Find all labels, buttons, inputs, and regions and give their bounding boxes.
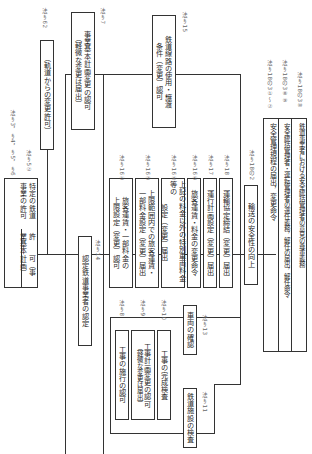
construction-ref-2: 法§10 — [160, 300, 168, 320]
construction-label: 工事の完成検査 — [160, 350, 169, 400]
construction-box-2: 工事の完成検査 — [157, 330, 171, 420]
fare-spine — [240, 74, 241, 384]
vehicle-check-label: 車両の確認 — [186, 312, 195, 348]
safety-ref-2: 法§18の3⑩ — [296, 72, 304, 109]
fare-box-3: 旅客運賃・料金の変更命令 — [187, 178, 201, 288]
fare-ref-3: 法§16⑤ — [191, 155, 199, 182]
construction-left — [110, 317, 111, 433]
plan-change-ref: 法§7 — [99, 8, 107, 24]
fare-ref-1: 法§16③ — [144, 155, 152, 182]
safety-ref-1: 法§18の3⑧⑨ — [281, 60, 289, 103]
fare-label: 旅客運賃・一部料金の — [121, 197, 130, 269]
plan-change-label: 事業基本計画変更の認可 — [83, 31, 92, 110]
vehicle-check-box: 車両の確認 — [183, 305, 197, 355]
root-permit-subtitle: 特定の鉄道事業の許可 — [21, 179, 37, 229]
fare-box-4: 運行計画設定（変更）届出 — [203, 178, 217, 288]
fare-note: 上限設定（変更）認可 — [112, 197, 121, 269]
fare-label: 旅客運賃・料金の変更命令 — [190, 190, 199, 276]
fare-box-1: 上限範囲内での旅客運賃・ 一部料金設定（変更）届出 — [135, 178, 159, 288]
certification-box: 認定鉄道事業者の認定 — [78, 236, 92, 346]
vehicle-check-ref: 法§13 — [201, 315, 209, 335]
safety-ref-0: 法§18の3①〜⑦ — [266, 60, 274, 109]
safety-box: 輸送の安全性の向上 — [244, 185, 258, 285]
fare-label: 上限範囲内での旅客運賃・ — [147, 190, 156, 276]
fare-box-0: 旅客運賃・一部料金の 上限設定（変更）認可 — [109, 178, 133, 288]
facility-inspection-box: 鉄道施設の検査 — [183, 388, 197, 448]
construction-note: （軽微な変更は届出） — [134, 344, 143, 406]
construction-right — [214, 384, 215, 434]
root-permit-title: 許 可（事業基本計画） — [21, 229, 37, 287]
plan-change-note: （軽微な変更は届出） — [74, 35, 83, 107]
fare-ref-2: 法§16④ — [170, 155, 178, 182]
fare-note: 一部料金設定（変更）届出 — [138, 190, 147, 276]
facility-use-ref: 法§15 — [181, 12, 189, 32]
safety-item-0: 安全管理規程の届出，変更命令 — [264, 119, 279, 351]
safety-ref: 法§18の2 — [248, 150, 256, 180]
fare-ref-4: 法§17 — [207, 155, 215, 175]
facility-use-note: 条件（変更）認可 — [155, 43, 164, 101]
facility-inspection-label: 鉄道施設の検査 — [186, 393, 195, 443]
fare-label: 上記の料金以外の特別車両料金等の — [169, 181, 187, 285]
construction-box-0: 工事の施行の認可 — [115, 330, 129, 420]
lower-right-link — [214, 384, 241, 385]
certification-ref: 法§14 — [94, 240, 102, 260]
plan-change-box: 事業基本計画変更の認可 （軽微な変更は届出） — [71, 12, 95, 130]
safety-items-table: 安全管理規程の届出，変更命令 安全統括管理者・運転管理者の選任義務，解任の届出，… — [263, 118, 307, 352]
track-change-ref: 法§62 — [41, 8, 49, 28]
construction-label: 工事の施行の認可 — [118, 346, 127, 404]
root-subtitle-ref: 法§5② — [25, 150, 33, 173]
safety-item-1: 安全統括管理者・運転管理者の選任義務，解任の届出，解任命令 — [279, 119, 293, 351]
fare-box-5: 運輸協定締結（変更）届出 — [219, 178, 233, 288]
fare-ref-0: 法§16① — [118, 155, 126, 182]
safety-item-2: 鉄道事業者における安全統括管理者の意見の尊重義務 — [292, 119, 306, 351]
construction-bottom — [110, 433, 214, 434]
certification-label: 認定鉄道事業者の認定 — [81, 255, 90, 327]
construction-label: 工事計画変更の認可 — [143, 343, 152, 408]
mid-vertical — [103, 74, 104, 454]
facility-use-label: 鉄道線路の使用・譲渡 — [164, 36, 173, 108]
fare-label: 運行計画設定（変更）届出 — [206, 190, 215, 276]
fare-ref-5: 法§18 — [223, 155, 231, 175]
facility-use-box: 鉄道線路の使用・譲渡 条件（変更）認可 — [152, 15, 176, 128]
construction-top — [110, 317, 240, 318]
root-permit-box: 許 可（事業基本計画） 特定の鉄道事業の許可 — [4, 178, 38, 288]
fare-note: 設定（変更）届出 — [160, 204, 169, 262]
construction-ref-0: 法§8 — [118, 300, 126, 316]
construction-ref-1: 法§9 — [139, 300, 147, 316]
root-title-ref: 法§3，§4，§5，§6 — [9, 110, 17, 176]
safety-label: 輸送の安全性の向上 — [247, 203, 256, 268]
fare-label: 運輸協定締結（変更）届出 — [222, 190, 231, 276]
track-change-label: （軌道からの変更許可） — [43, 55, 52, 134]
facility-inspection-ref: 法§11 — [201, 392, 209, 412]
construction-box-1: 工事計画変更の認可 （軽微な変更は届出） — [131, 330, 155, 420]
fare-box-2: 上記の料金以外の特別車両料金等の 設定（変更）届出 — [161, 178, 185, 288]
track-change-box: （軌道からの変更許可） — [40, 40, 54, 150]
